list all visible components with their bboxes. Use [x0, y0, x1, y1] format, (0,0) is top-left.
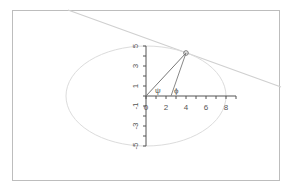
x-axis-tick-labels: 0 2 4 6 8: [144, 103, 229, 112]
y-axis-tick-labels: 5 3 1 -1 -3 -5: [131, 43, 140, 149]
x-tick-label: 4: [184, 103, 189, 112]
ellipse-diagram: 0 2 4 6 8 5 3 1 -1 -3 -5 ψ ϕ: [0, 0, 293, 194]
ray-from-origin: [146, 53, 186, 96]
y-tick-label: -3: [131, 122, 140, 130]
x-tick-label: 2: [164, 103, 169, 112]
y-axis: [143, 46, 146, 146]
x-tick-label: 6: [204, 103, 209, 112]
x-axis: [146, 96, 236, 99]
y-tick-label: 3: [131, 63, 140, 68]
y-tick-label: -1: [131, 102, 140, 110]
psi-label: ψ: [155, 86, 161, 95]
y-tick-label: 1: [131, 83, 140, 88]
tangent-line: [68, 10, 281, 87]
y-tick-label: 5: [131, 43, 140, 48]
x-tick-label: 8: [224, 103, 229, 112]
y-tick-label: -5: [131, 142, 140, 150]
phi-label: ϕ: [174, 86, 179, 95]
